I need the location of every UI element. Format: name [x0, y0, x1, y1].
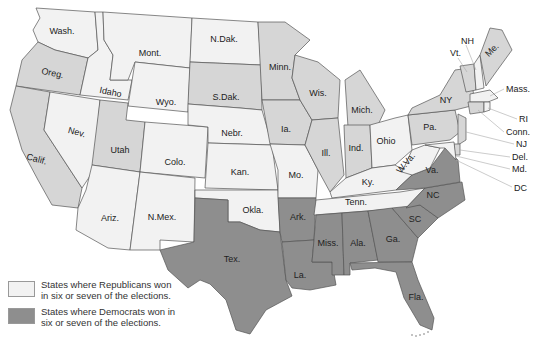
label-ind: Ind. — [348, 143, 363, 153]
label-ndak: N.Dak. — [210, 34, 238, 44]
florida-keys — [411, 331, 429, 337]
legend-swatch-republican — [8, 281, 35, 297]
label-kan: Kan. — [231, 167, 250, 177]
label-nj: NJ — [516, 139, 527, 149]
state-sdak — [188, 62, 262, 110]
label-utah: Utah — [110, 145, 129, 155]
label-minn: Minn. — [269, 62, 291, 72]
label-ia: Ia. — [281, 124, 291, 134]
state-nmex — [130, 172, 195, 250]
label-la: La. — [294, 270, 307, 280]
label-ga: Ga. — [386, 234, 401, 244]
label-dc: DC — [514, 183, 527, 193]
label-miss: Miss. — [318, 238, 339, 248]
label-mass: Mass. — [506, 84, 530, 94]
label-ill: Ill. — [322, 148, 331, 158]
state-mich — [345, 70, 385, 127]
label-mont: Mont. — [139, 48, 162, 58]
label-va: Va. — [426, 165, 439, 175]
label-vt: Vt. — [450, 48, 461, 58]
label-pa: Pa. — [423, 122, 437, 132]
legend-swatch-democrat — [8, 308, 35, 324]
label-ohio: Ohio — [376, 136, 395, 146]
label-ri: RI — [519, 114, 528, 124]
label-colo: Colo. — [164, 157, 185, 167]
label-tenn: Tenn. — [345, 197, 367, 207]
state-nj — [458, 114, 466, 145]
label-ny: NY — [440, 95, 453, 105]
map-legend: States where Republicans won in six or s… — [8, 280, 238, 334]
label-ark: Ark. — [290, 212, 306, 222]
label-mo: Mo. — [288, 170, 303, 180]
state-colo — [140, 122, 208, 178]
legend-item-republican: States where Republicans won in six or s… — [8, 280, 238, 301]
state-mass — [470, 90, 498, 102]
label-nebr: Nebr. — [221, 128, 243, 138]
label-wis: Wis. — [309, 88, 327, 98]
label-conn: Conn. — [506, 127, 530, 137]
label-md: Md. — [512, 164, 527, 174]
label-nh: NH — [461, 36, 474, 46]
label-del: Del. — [512, 152, 528, 162]
label-ariz: Ariz. — [101, 213, 119, 223]
state-ri — [484, 102, 490, 112]
label-tex: Tex. — [224, 254, 241, 264]
label-fla: Fla. — [408, 292, 423, 302]
label-okla: Okla. — [242, 205, 263, 215]
state-conn — [468, 102, 484, 114]
label-wyo: Wyo. — [156, 97, 176, 107]
label-sdak: S.Dak. — [212, 92, 239, 102]
label-nmex: N.Mex. — [148, 212, 177, 222]
label-sc: SC — [409, 214, 422, 224]
label-mich: Mich. — [351, 105, 373, 115]
legend-item-democrat: States where Democrats won in six or sev… — [8, 307, 238, 328]
legend-label-republican: States where Republicans won in six or s… — [41, 280, 181, 301]
label-wash: Wash. — [49, 26, 74, 36]
legend-label-democrat: States where Democrats won in six or sev… — [41, 307, 181, 328]
label-ala: Ala. — [350, 238, 366, 248]
state-utah — [92, 100, 145, 172]
label-ky: Ky. — [362, 177, 374, 187]
label-nc: NC — [427, 190, 440, 200]
state-me — [480, 28, 512, 86]
